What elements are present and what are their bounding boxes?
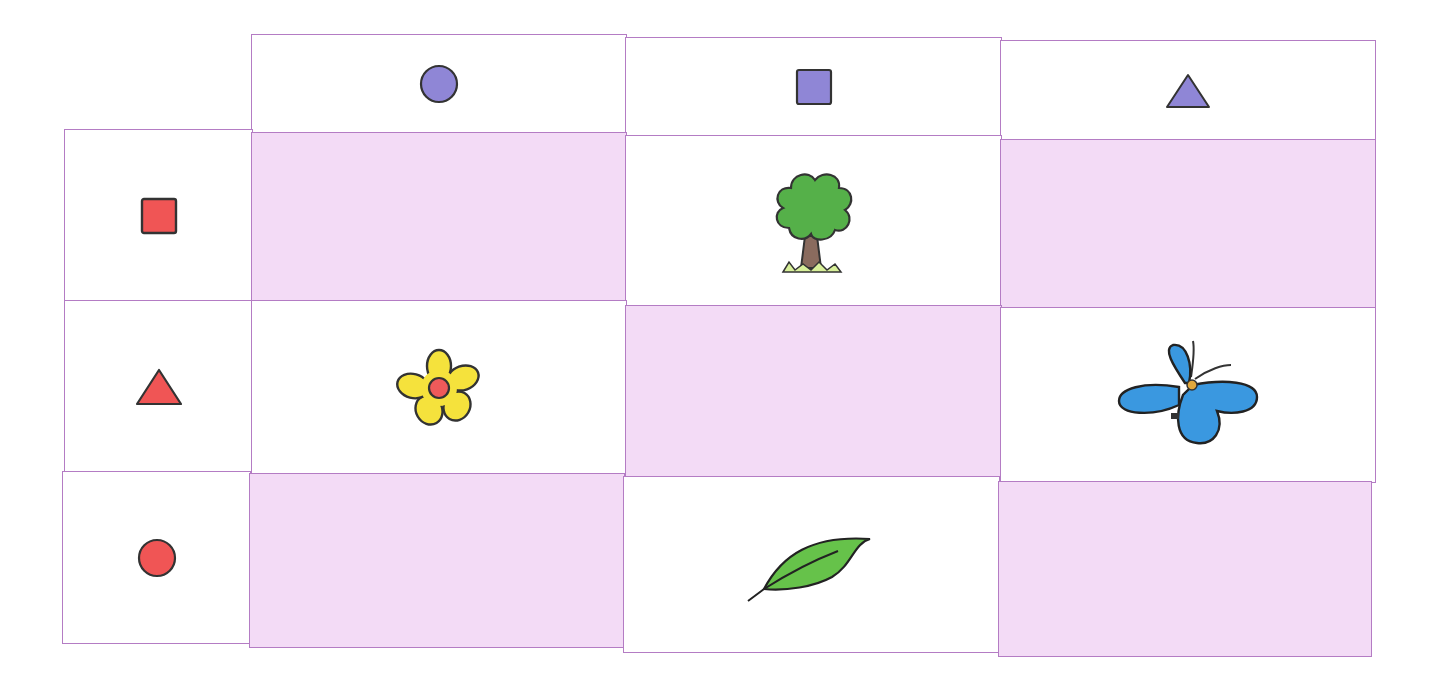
grid-cell-r3-c1 [249, 473, 625, 648]
purple-triangle-icon [1163, 71, 1213, 111]
grid-cell-r2-c3 [1000, 307, 1376, 483]
row-header-circle [62, 471, 251, 644]
grid-cell-r3-c3 [998, 481, 1372, 657]
grid-cell-r1-c1 [251, 132, 627, 302]
grid-cell-r1-c2 [625, 135, 1002, 307]
red-square-icon [139, 196, 179, 236]
purple-square-icon [794, 67, 834, 107]
row-header-square [64, 129, 253, 302]
row-header-triangle [64, 300, 253, 473]
grid-cell-r3-c2 [623, 476, 1000, 653]
purple-circle-icon [417, 62, 461, 106]
red-triangle-icon [133, 366, 185, 408]
red-circle-icon [135, 536, 179, 580]
tree-icon [769, 166, 859, 276]
column-header-triangle [1000, 40, 1376, 141]
grid-cell-r1-c3 [1000, 139, 1376, 309]
grid-cell-r2-c1 [251, 300, 627, 475]
column-header-square [625, 37, 1002, 137]
grid-cell-r2-c2 [625, 305, 1002, 480]
leaf-icon [742, 525, 882, 605]
column-header-circle [251, 34, 627, 134]
flower-icon [391, 346, 487, 430]
butterfly-icon [1113, 335, 1263, 455]
